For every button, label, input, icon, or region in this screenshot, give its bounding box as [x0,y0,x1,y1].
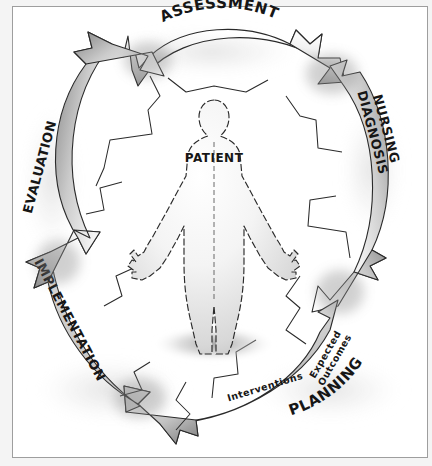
ring-diagram: ASSESSMENT NURSING DIAGNOSIS PLANNING [20,0,408,444]
diagram-page: ASSESSMENT NURSING DIAGNOSIS PLANNING [0,0,432,466]
patient-label: PATIENT [185,151,244,165]
figure-shadow [152,326,276,362]
assessment-label: ASSESSMENT [157,0,282,26]
nursing-process-canvas: ASSESSMENT NURSING DIAGNOSIS PLANNING [0,0,432,466]
patient-figure[interactable]: PATIENT [128,100,300,354]
